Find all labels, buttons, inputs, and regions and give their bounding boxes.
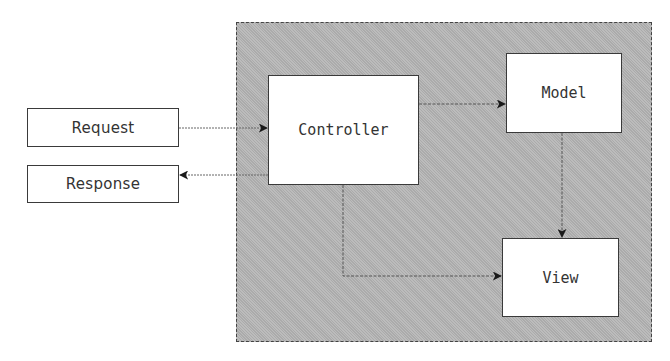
view-label: View [542,269,578,287]
controller-label: Controller [298,121,388,139]
response-label: Response [66,175,140,193]
request-label: Request [71,119,134,137]
request-node: Request [27,108,179,147]
model-node: Model [506,53,622,133]
model-label: Model [541,84,586,102]
response-node: Response [27,165,179,203]
view-node: View [502,238,619,317]
controller-node: Controller [268,75,419,185]
